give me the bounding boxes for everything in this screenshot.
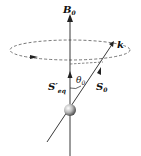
seq-arrow-icon xyxy=(68,71,73,78)
s0-label: S0 xyxy=(96,81,108,93)
k-label: k xyxy=(117,39,124,50)
seq-label: S′eq xyxy=(48,81,66,95)
k-arrow-icon xyxy=(109,41,114,47)
b0-label: B0 xyxy=(62,4,76,16)
projection-line xyxy=(70,62,103,64)
spin-precession-diagram: B0 k θ0 S0 S′eq xyxy=(0,0,141,156)
s0-arrow-icon xyxy=(97,67,101,75)
theta-arc xyxy=(70,86,81,89)
theta-label: θ0 xyxy=(76,75,85,86)
particle-ball xyxy=(64,104,76,116)
